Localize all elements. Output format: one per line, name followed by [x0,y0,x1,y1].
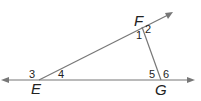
point-label-f: F [134,12,144,29]
point-label-g: G [155,81,167,98]
angle-label-2: 2 [145,23,151,35]
angle-label-3: 3 [29,68,35,80]
angle-label-5: 5 [149,68,155,80]
arrowhead-left-icon [1,77,9,83]
angle-label-4: 4 [58,68,64,80]
angle-label-6: 6 [163,68,169,80]
arrowhead-right-icon [187,77,195,83]
geometry-diagram: F E G 1 2 3 4 5 6 [0,0,201,101]
point-label-e: E [31,80,42,97]
angle-label-1: 1 [136,29,142,41]
